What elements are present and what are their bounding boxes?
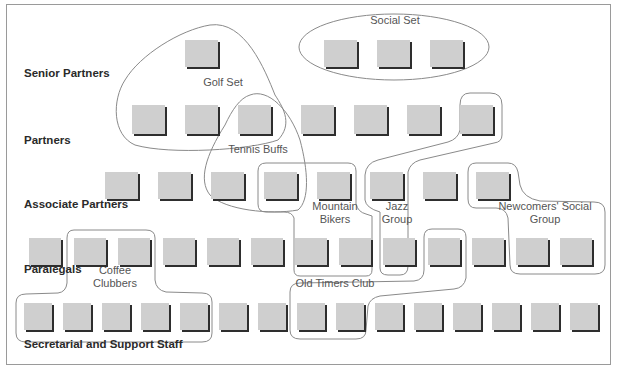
person-box-paralegals-row: [251, 238, 283, 265]
person-box-paralegals-row: [516, 238, 548, 265]
person-box-support-staff-row: [141, 303, 169, 330]
person-box-support-staff-row: [453, 303, 481, 330]
person-box-associate-partners-row: [211, 172, 244, 199]
person-box-paralegals-row: [383, 238, 415, 265]
group-label: Tennis Buffs: [213, 143, 303, 156]
person-box-associate-partners-row: [264, 172, 297, 199]
tier-label: Associate Partners: [24, 198, 128, 210]
person-box-associate-partners-row: [476, 172, 509, 199]
person-box-senior-partners-row: [185, 40, 218, 67]
person-box-paralegals-row: [295, 238, 327, 265]
person-box-paralegals-row: [560, 238, 592, 265]
person-box-paralegals-row: [339, 238, 371, 265]
person-box-partners-row: [460, 105, 493, 134]
group-label: Mountain Bikers: [300, 200, 370, 226]
person-box-paralegals-row: [163, 238, 195, 265]
person-box-support-staff-row: [24, 303, 52, 330]
person-box-paralegals-row: [74, 238, 106, 265]
group-label: Old Timers Club: [285, 277, 385, 290]
person-box-paralegals-row: [207, 238, 239, 265]
person-box-support-staff-row: [297, 303, 325, 330]
group-label: Social Set: [355, 14, 435, 27]
tier-label: Partners: [24, 134, 71, 146]
person-box-associate-partners-row: [423, 172, 456, 199]
person-box-support-staff-row: [492, 303, 520, 330]
person-box-associate-partners-row: [158, 172, 191, 199]
person-box-support-staff-row: [180, 303, 208, 330]
person-box-senior-partners-row: [324, 40, 357, 67]
person-box-support-staff-row: [63, 303, 91, 330]
person-box-support-staff-row: [219, 303, 247, 330]
person-box-partners-row: [238, 105, 271, 134]
person-box-paralegals-row: [472, 238, 504, 265]
group-label: Coffee Clubbers: [80, 264, 150, 290]
person-box-partners-row: [354, 105, 387, 134]
group-label: Jazz Group: [377, 200, 417, 226]
group-label: Golf Set: [183, 76, 263, 89]
person-box-support-staff-row: [258, 303, 286, 330]
person-box-paralegals-row: [118, 238, 150, 265]
person-box-support-staff-row: [531, 303, 559, 330]
person-box-support-staff-row: [414, 303, 442, 330]
person-box-support-staff-row: [570, 303, 598, 330]
person-box-support-staff-row: [336, 303, 364, 330]
person-box-associate-partners-row: [317, 172, 350, 199]
person-box-paralegals-row: [428, 238, 460, 265]
tier-label: Senior Partners: [24, 67, 110, 79]
person-box-senior-partners-row: [377, 40, 410, 67]
person-box-partners-row: [407, 105, 440, 134]
person-box-support-staff-row: [102, 303, 130, 330]
person-box-senior-partners-row: [430, 40, 463, 67]
person-box-associate-partners-row: [370, 172, 403, 199]
person-box-partners-row: [132, 105, 165, 134]
person-box-paralegals-row: [29, 238, 61, 265]
person-box-partners-row: [301, 105, 334, 134]
tier-label: Secretarial and Support Staff: [24, 338, 182, 350]
group-label: Newcomers' Social Group: [490, 200, 600, 226]
person-box-associate-partners-row: [105, 172, 138, 199]
person-box-support-staff-row: [375, 303, 403, 330]
person-box-partners-row: [185, 105, 218, 134]
